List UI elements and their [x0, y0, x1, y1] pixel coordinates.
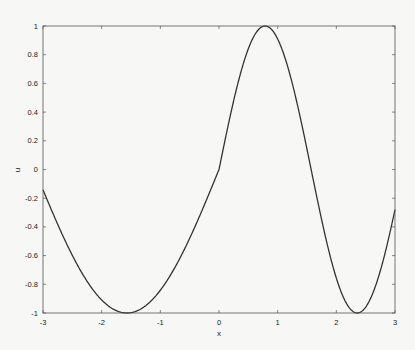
x-tick-label: 0 — [217, 318, 221, 327]
x-tick-label: 2 — [334, 318, 338, 327]
y-tick-label: 0.4 — [28, 108, 38, 117]
y-tick-label: 0.6 — [28, 79, 38, 88]
x-tick-label: -2 — [98, 318, 105, 327]
y-tick-label: 0.8 — [28, 50, 38, 59]
y-tick-label: -0.6 — [25, 251, 38, 260]
x-axis-ticks: -3-2-10123 — [40, 26, 397, 327]
x-tick-label: -3 — [40, 318, 47, 327]
y-tick-label: 0.2 — [28, 136, 38, 145]
x-tick-label: 1 — [276, 318, 280, 327]
y-tick-label: 1 — [34, 22, 38, 31]
x-axis-label: x — [217, 329, 221, 338]
x-tick-label: 3 — [393, 318, 397, 327]
y-tick-label: -0.4 — [25, 222, 38, 231]
y-axis-label: u — [13, 168, 22, 172]
data-line — [43, 26, 395, 313]
y-tick-label: 0 — [34, 165, 38, 174]
plot-area — [43, 26, 395, 313]
line-chart: -3-2-10123 -1-0.8-0.6-0.4-0.200.20.40.60… — [0, 0, 415, 350]
y-tick-label: -0.8 — [25, 280, 38, 289]
y-axis-ticks: -1-0.8-0.6-0.4-0.200.20.40.60.81 — [25, 22, 395, 318]
y-tick-label: -0.2 — [25, 194, 38, 203]
y-tick-label: -1 — [31, 309, 38, 318]
x-tick-label: -1 — [157, 318, 164, 327]
